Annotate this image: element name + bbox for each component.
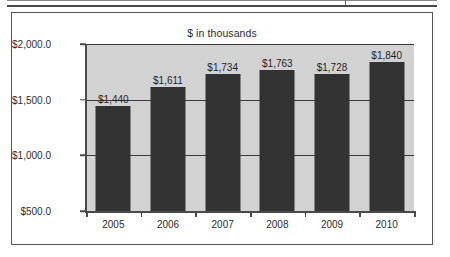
bar-value-label: $1,734 bbox=[207, 62, 238, 73]
x-axis-tick-mark bbox=[195, 211, 197, 217]
bar-value-label: $1,611 bbox=[153, 75, 183, 86]
x-axis-tick-mark bbox=[359, 211, 361, 217]
table-edge-line-top bbox=[7, 0, 437, 1]
bars-layer: $1,440$1,611$1,734$1,763$1,728$1,840 bbox=[86, 44, 414, 211]
x-axis-tick-label: 2010 bbox=[376, 219, 398, 230]
chart-title: $ in thousands bbox=[12, 27, 432, 39]
x-axis-tick-mark bbox=[305, 211, 307, 217]
bar[interactable] bbox=[205, 74, 240, 211]
bar[interactable] bbox=[369, 62, 404, 211]
x-axis-tick-label: 2006 bbox=[157, 219, 179, 230]
x-axis-tick-mark bbox=[414, 211, 416, 217]
bar[interactable] bbox=[314, 74, 349, 211]
x-axis-tick-label: 2008 bbox=[266, 219, 288, 230]
x-axis-tick-label: 2007 bbox=[212, 219, 234, 230]
x-axis-tick-label: 2005 bbox=[102, 219, 124, 230]
x-axis-tick-label: 2009 bbox=[321, 219, 343, 230]
x-axis-tick-mark bbox=[86, 211, 88, 217]
bar-value-label: $1,763 bbox=[262, 58, 293, 69]
y-axis-tick-label: $2,000.0 bbox=[12, 39, 51, 50]
bar-group: $1,763 bbox=[250, 44, 305, 211]
bar[interactable] bbox=[150, 87, 185, 211]
x-axis-tick-mark bbox=[250, 211, 252, 217]
x-axis-tick-mark bbox=[141, 211, 143, 217]
y-axis-tick-label: $1,500.0 bbox=[12, 94, 51, 105]
y-axis-tick-label: $500.0 bbox=[20, 206, 51, 217]
bar-chart: $ in thousands $2,000.0$1,500.0$1,000.0$… bbox=[11, 12, 433, 245]
table-edge-line-bottom bbox=[7, 5, 437, 7]
bar-value-label: $1,728 bbox=[317, 62, 348, 73]
bar-group: $1,728 bbox=[305, 44, 360, 211]
bar-group: $1,440 bbox=[86, 44, 141, 211]
bar-group: $1,734 bbox=[195, 44, 250, 211]
bar[interactable] bbox=[260, 70, 295, 211]
bar-value-label: $1,440 bbox=[98, 94, 129, 105]
bar-value-label: $1,840 bbox=[371, 50, 402, 61]
bar-group: $1,840 bbox=[359, 44, 414, 211]
y-axis-tick-label: $1,000.0 bbox=[12, 150, 51, 161]
bar-group: $1,611 bbox=[141, 44, 196, 211]
bar[interactable] bbox=[96, 106, 131, 211]
table-edge-remnant bbox=[7, 0, 437, 7]
